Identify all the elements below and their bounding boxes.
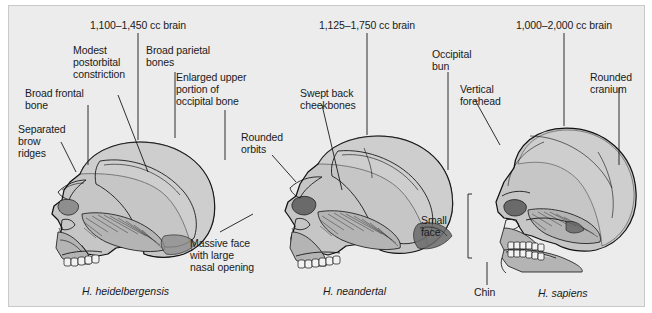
label-small: Small	[421, 215, 447, 227]
label-rounded-cranium-2: cranium	[590, 84, 627, 96]
label-nasal-opening: nasal opening	[190, 262, 254, 274]
label-constriction: constriction	[73, 69, 125, 81]
leader-rounded-orbits	[272, 155, 296, 182]
label-brain-size-neandertal: 1,125–1,750 cc brain	[307, 20, 427, 32]
label-bones: bones	[146, 57, 174, 69]
label-occipital-bone: occipital bone	[176, 96, 239, 108]
label-separated: Separated	[18, 124, 66, 136]
label-face: face	[421, 227, 440, 239]
label-swept-back: Swept back	[300, 88, 353, 100]
leader-swept-back-cheekbones	[322, 105, 342, 190]
label-postorbital: postorbital	[73, 57, 120, 69]
label-modest: Modest	[73, 45, 107, 57]
leader-modest-postorbital	[118, 95, 148, 172]
label-ridges: ridges	[18, 148, 46, 160]
label-massive-face: Massive face	[190, 238, 250, 250]
species-label-sapiens: H. sapiens	[538, 287, 588, 299]
label-bun: bun	[432, 61, 449, 73]
species-label-neandertal: H. neandertal	[323, 285, 386, 297]
label-chin: Chin	[474, 287, 495, 299]
label-brow: brow	[18, 136, 40, 148]
label-broad-parietal: Broad parietal	[146, 45, 210, 57]
leader-massive-face	[220, 214, 253, 232]
hominin-skull-comparison-figure: 1,100–1,450 cc brain 1,125–1,750 cc brai…	[0, 0, 652, 313]
label-rounded-orbits-2: orbits	[241, 144, 266, 156]
bracket-small-face	[468, 194, 472, 258]
label-cheekbones: cheekbones	[300, 100, 356, 112]
label-with-large: with large	[190, 250, 234, 262]
label-rounded-orbits-1: Rounded	[241, 132, 283, 144]
label-broad-frontal: Broad frontal	[25, 88, 84, 100]
label-enlarged-upper: Enlarged upper	[176, 72, 246, 84]
label-brain-size-heidelbergensis: 1,100–1,450 cc brain	[78, 20, 198, 32]
label-brain-size-sapiens: 1,000–2,000 cc brain	[504, 20, 624, 32]
label-rounded-cranium-1: Rounded	[590, 72, 632, 84]
label-bone: bone	[25, 100, 48, 112]
label-forehead: forehead	[460, 96, 501, 108]
species-label-heidelbergensis: H. heidelbergensis	[82, 285, 169, 297]
label-portion-of: portion of	[176, 84, 219, 96]
label-vertical: Vertical	[460, 84, 494, 96]
label-occipital: Occipital	[432, 49, 471, 61]
leader-separated-brow	[61, 142, 76, 172]
